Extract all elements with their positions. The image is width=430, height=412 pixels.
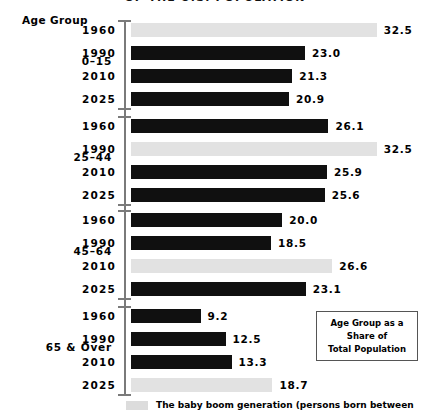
chart-row: 202520.9 xyxy=(0,91,430,107)
axis-tick xyxy=(118,306,131,308)
bar xyxy=(131,119,328,133)
bar-value-label: 25.6 xyxy=(332,187,361,203)
baby-boom-swatch-icon xyxy=(126,401,148,410)
row-year-label: 2025 xyxy=(58,281,116,297)
chart-row: 199032.5 xyxy=(0,141,430,157)
legend-line-3: Total Population xyxy=(328,344,406,355)
bar-value-label: 26.1 xyxy=(335,118,364,134)
bar xyxy=(131,188,325,202)
bar-baby-boom xyxy=(131,23,377,37)
row-year-label: 1990 xyxy=(58,235,116,251)
chart-row: 201026.6 xyxy=(0,258,430,274)
bar xyxy=(131,309,201,323)
bar xyxy=(131,46,305,60)
row-year-label: 1960 xyxy=(58,118,116,134)
row-year-label: 1960 xyxy=(58,308,116,324)
row-year-label: 2025 xyxy=(58,91,116,107)
bar-value-label: 9.2 xyxy=(208,308,229,324)
axis-tick xyxy=(118,204,131,206)
axis-tick xyxy=(118,108,131,110)
row-year-label: 1960 xyxy=(58,22,116,38)
legend-line-2: Share of xyxy=(347,331,387,342)
bar-value-label: 20.0 xyxy=(289,212,318,228)
row-year-label: 2025 xyxy=(58,187,116,203)
chart-row: 196020.0 xyxy=(0,212,430,228)
axis-tick xyxy=(118,394,131,396)
chart-row: 202525.6 xyxy=(0,187,430,203)
legend-line-1: Age Group as a xyxy=(331,318,404,329)
row-year-label: 2010 xyxy=(58,164,116,180)
chart-row: 202518.7 xyxy=(0,377,430,393)
bar xyxy=(131,69,292,83)
row-year-label: 2010 xyxy=(58,68,116,84)
bar-value-label: 20.9 xyxy=(296,91,325,107)
bar-value-label: 18.5 xyxy=(278,235,307,251)
chart-row: 199023.0 xyxy=(0,45,430,61)
footnote-text: The baby boom generation (persons born b… xyxy=(156,400,414,411)
bar xyxy=(131,236,271,250)
bar-value-label: 23.0 xyxy=(312,45,341,61)
bar xyxy=(131,332,226,346)
row-year-label: 1990 xyxy=(58,331,116,347)
row-year-label: 2010 xyxy=(58,354,116,370)
axis-tick xyxy=(118,20,131,22)
bar xyxy=(131,92,289,106)
bar-baby-boom xyxy=(131,259,332,273)
bar-value-label: 32.5 xyxy=(384,141,413,157)
axis-tick xyxy=(118,298,131,300)
bar-value-label: 26.6 xyxy=(339,258,368,274)
chart-row: 202523.1 xyxy=(0,281,430,297)
bar-value-label: 18.7 xyxy=(279,377,308,393)
bar xyxy=(131,282,306,296)
chart-row: 196032.5 xyxy=(0,22,430,38)
row-year-label: 1990 xyxy=(58,141,116,157)
bar-value-label: 21.3 xyxy=(299,68,328,84)
legend-box: Age Group as a Share of Total Population xyxy=(316,311,418,361)
chart-row: 199018.5 xyxy=(0,235,430,251)
bar xyxy=(131,213,282,227)
bar-value-label: 13.3 xyxy=(239,354,268,370)
row-year-label: 2025 xyxy=(58,377,116,393)
axis-tick xyxy=(118,210,131,212)
bar-value-label: 12.5 xyxy=(233,331,262,347)
axis-tick xyxy=(118,116,131,118)
bar-value-label: 23.1 xyxy=(313,281,342,297)
bar xyxy=(131,165,327,179)
chart-row: 201025.9 xyxy=(0,164,430,180)
row-year-label: 1990 xyxy=(58,45,116,61)
row-year-label: 2010 xyxy=(58,258,116,274)
bar-value-label: 25.9 xyxy=(334,164,363,180)
chart-row: 196026.1 xyxy=(0,118,430,134)
bar-baby-boom xyxy=(131,378,272,392)
row-year-label: 1960 xyxy=(58,212,116,228)
footnote: The baby boom generation (persons born b… xyxy=(126,400,414,411)
bar-value-label: 32.5 xyxy=(384,22,413,38)
chart-row: 201021.3 xyxy=(0,68,430,84)
bar xyxy=(131,355,232,369)
bar-baby-boom xyxy=(131,142,377,156)
